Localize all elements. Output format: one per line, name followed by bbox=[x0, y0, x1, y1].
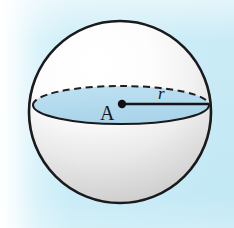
center-point-dot bbox=[118, 100, 126, 108]
sphere-figure: A r bbox=[0, 0, 234, 228]
sphere-diagram-canvas bbox=[0, 0, 234, 228]
radius-label: r bbox=[158, 85, 165, 102]
center-point-label: A bbox=[100, 103, 114, 123]
